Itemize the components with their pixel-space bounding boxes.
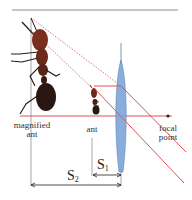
s1-dimension-arrow [93, 173, 121, 177]
focal-point-label: focal point [152, 124, 184, 142]
s2-label-main: S [67, 168, 75, 183]
magnified-ant-label-line2: ant [12, 130, 52, 139]
ant-label: ant [80, 125, 104, 134]
s2-label: S2 [67, 169, 79, 184]
magnified-ant-label: magnified ant [12, 121, 52, 139]
lens-magnification-diagram [0, 0, 192, 200]
focal-point-label-line2: point [152, 133, 184, 142]
s1-label-main: S [97, 157, 105, 172]
focal-point-dot [166, 114, 169, 117]
ant-label-text: ant [80, 125, 104, 134]
s1-label-sub: 1 [105, 164, 109, 173]
s2-label-sub: 2 [75, 175, 79, 184]
magnified-ant-icon [11, 18, 60, 114]
s1-label: S1 [97, 158, 109, 173]
parallel-ray [94, 86, 186, 152]
